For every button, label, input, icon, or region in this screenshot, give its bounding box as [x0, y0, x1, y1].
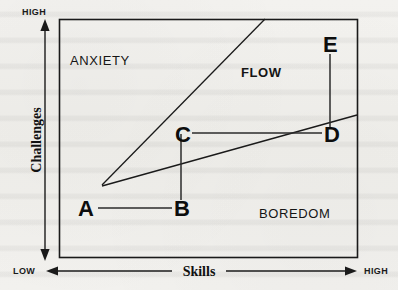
zone-label-flow: FLOW — [241, 65, 282, 80]
point-label-d: D — [324, 122, 340, 147]
challenges-axis-title: Challenges — [29, 107, 44, 173]
state-connectors — [98, 54, 330, 208]
point-label-b: B — [174, 196, 190, 221]
challenges-high-label: HIGH — [22, 7, 46, 17]
skills-low-label: LOW — [13, 266, 35, 276]
point-label-a: A — [78, 196, 94, 221]
zone-label-anxiety: ANXIETY — [70, 53, 130, 68]
flow-diagram: HIGH Challenges LOW Skills HIGH — [0, 0, 398, 290]
flow-diagram-canvas: HIGH Challenges LOW Skills HIGH — [0, 0, 398, 290]
anxiety-flow-boundary — [102, 19, 265, 185]
skills-axis: LOW Skills HIGH — [13, 264, 388, 279]
skills-axis-arrow-left — [46, 266, 58, 275]
skills-high-label: HIGH — [364, 266, 388, 276]
point-label-c: C — [175, 122, 191, 147]
skills-axis-title: Skills — [183, 264, 216, 279]
point-label-e: E — [323, 32, 338, 57]
challenges-axis-arrow-up — [40, 19, 49, 31]
challenges-axis: HIGH Challenges — [22, 7, 50, 261]
zone-label-boredom: BOREDOM — [259, 206, 330, 221]
skills-axis-arrow-right — [345, 266, 357, 275]
challenges-axis-arrow-down — [40, 249, 49, 261]
flow-boredom-boundary — [102, 115, 357, 186]
